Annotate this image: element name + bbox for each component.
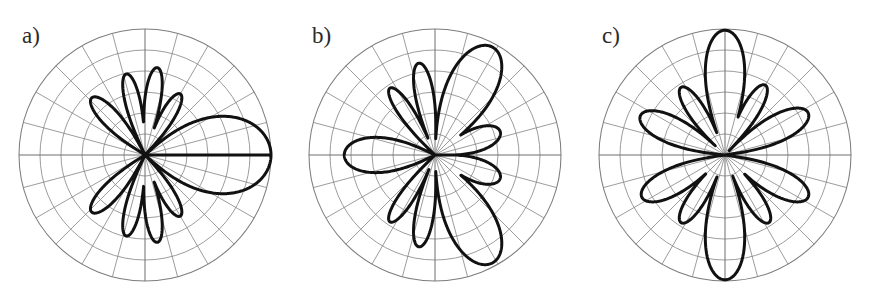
polar-plot-c xyxy=(580,0,870,302)
grid-spoke-210 xyxy=(326,155,435,218)
polar-plot-b xyxy=(290,0,580,302)
grid-spoke-300 xyxy=(145,155,208,264)
grid-spoke-300 xyxy=(725,155,788,264)
grid-spoke-240 xyxy=(662,155,725,264)
panel-label-c: c) xyxy=(602,24,620,47)
polar-plot-a xyxy=(0,0,290,302)
grid-spoke-60 xyxy=(435,46,498,155)
grid-spoke-60 xyxy=(145,46,208,155)
polar-chart-b-svg xyxy=(290,0,580,302)
panel-label-b: b) xyxy=(312,24,331,47)
panel-label-a: a) xyxy=(22,24,40,47)
grid-spoke-120 xyxy=(662,46,725,155)
panel-b: b) xyxy=(290,0,580,302)
polar-radiation-pattern-figure: a) b) c) xyxy=(0,0,870,302)
panel-a: a) xyxy=(0,0,290,302)
polar-chart-a-svg xyxy=(0,0,290,302)
polar-chart-c-svg xyxy=(580,0,870,302)
grid-spoke-60 xyxy=(725,46,788,155)
grid-spoke-300 xyxy=(435,155,498,264)
grid-spoke-150 xyxy=(326,92,435,155)
panel-c: c) xyxy=(580,0,870,302)
